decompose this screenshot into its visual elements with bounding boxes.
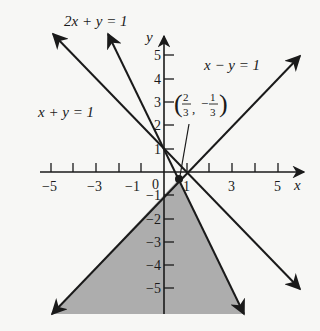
vertex-point: [175, 175, 183, 183]
x-tick-label: 3: [228, 179, 235, 194]
y-axis-label: y: [144, 29, 153, 45]
y-tick-label: −1: [146, 188, 161, 203]
y-tick-label: 3: [154, 95, 161, 110]
x-tick-label: 1: [183, 179, 190, 194]
x-tick-label: −1: [125, 179, 140, 194]
graph-canvas: x y −5 −3 −1 0 1 3 5 5 4 3 2 1 −1 −2 −3 …: [0, 0, 320, 331]
y-tick-label: 4: [154, 72, 161, 87]
label-x-minus-y: x − y = 1: [203, 57, 260, 73]
y-tick-label: −5: [146, 281, 161, 296]
svg-text:1: 1: [210, 91, 216, 103]
y-tick-label: 1: [154, 142, 161, 157]
y-tick-label: 2: [154, 118, 161, 133]
svg-text:): ): [219, 89, 228, 118]
y-tick-label: 5: [154, 48, 161, 63]
point-label: ( 2 3 , − 1 3 ): [174, 89, 228, 118]
x-axis-label: x: [293, 177, 301, 193]
svg-text:3: 3: [183, 106, 189, 118]
y-tick-label: −3: [146, 235, 161, 250]
svg-text:−: −: [201, 96, 208, 111]
x-tick-label: −5: [42, 179, 57, 194]
x-tick-label: −3: [87, 179, 102, 194]
svg-text:2: 2: [183, 91, 189, 103]
svg-text:3: 3: [210, 106, 216, 118]
svg-text:,: ,: [192, 101, 195, 116]
x-tick-label: 5: [274, 179, 281, 194]
y-tick-label: −2: [146, 212, 161, 227]
label-x-plus-y: x + y = 1: [37, 104, 94, 120]
label-2x-plus-y: 2x + y = 1: [64, 13, 128, 29]
y-tick-label: −4: [146, 258, 161, 273]
svg-text:(: (: [174, 89, 183, 118]
